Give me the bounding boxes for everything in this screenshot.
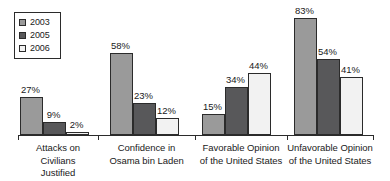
bar-2003-2 [202,114,225,135]
category-label-line: of the United States [195,155,287,168]
category-label-2: Favorable Opinionof the United States [195,142,287,167]
bar-2005-3 [317,59,340,135]
axis-tick-4 [373,135,374,140]
bar-2005-1 [133,103,156,135]
category-label-line: Unfavorable Opinion [287,142,373,155]
bar-chart: 2003 2005 2006 27%58%15%83%9%23%34%54%2%… [0,0,390,181]
axis-tick-2 [195,135,196,140]
axis-tick-3 [287,135,288,140]
bar-2003-0 [20,97,43,135]
bar-value-2003-3: 83% [293,6,316,16]
category-label-0: Attacks on CiviliansJustified [18,142,98,180]
bar-value-2003-0: 27% [19,85,42,95]
axis-tick-1 [98,135,99,140]
bar-value-2005-2: 34% [224,75,247,85]
bar-2003-1 [110,53,133,135]
axis-tick-0 [18,135,19,140]
category-label-line: Confidence in [98,142,195,155]
category-label-line: Attacks on Civilians [18,142,98,167]
category-label-line: Osama bin Laden [98,155,195,168]
category-label-3: Unfavorable Opinionof the United States [287,142,373,167]
bar-value-2006-1: 12% [155,106,178,116]
bar-2003-3 [294,18,317,135]
bar-2005-0 [43,122,66,135]
bar-2006-0 [66,132,89,135]
category-label-line: of the United States [287,155,373,168]
bar-2005-2 [225,87,248,135]
bar-value-2005-1: 23% [132,91,155,101]
bar-value-2006-0: 2% [65,120,88,130]
bar-value-2005-0: 9% [42,110,65,120]
plot-area: 27%58%15%83%9%23%34%54%2%12%44%41% [0,0,390,136]
bar-2006-3 [340,77,363,135]
category-labels: Attacks on CiviliansJustifiedConfidence … [0,142,390,181]
bar-2006-2 [248,73,271,135]
category-label-line: Justified [18,167,98,180]
bar-value-2006-3: 41% [339,65,362,75]
bar-value-2006-2: 44% [247,61,270,71]
category-label-1: Confidence inOsama bin Laden [98,142,195,167]
bar-value-2003-2: 15% [201,102,224,112]
bar-value-2003-1: 58% [109,41,132,51]
category-label-line: Favorable Opinion [195,142,287,155]
bar-2006-1 [156,118,179,135]
bar-value-2005-3: 54% [316,47,339,57]
